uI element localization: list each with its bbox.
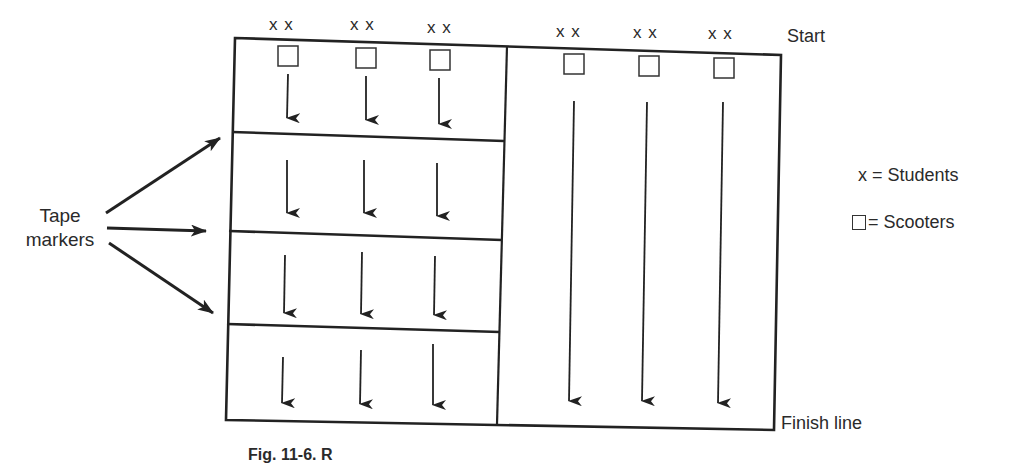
students-lane-left-1: x x [269,16,294,33]
down-arrow-icon [284,255,285,313]
scooter-icon [430,50,450,70]
students-lane-right-3: x x [708,25,733,42]
left-arrows-row-2 [287,160,437,216]
scooter-icon [564,54,584,74]
start-label: Start [787,27,825,45]
tape-marker-arrows [106,138,220,313]
figure-caption: Fig. 11-6. R [248,447,332,463]
down-arrow-icon [282,357,283,403]
scooter-icon [639,56,659,76]
right-arrows [569,101,723,403]
finish-line-label: Finish line [781,414,862,432]
tape-line-1 [232,132,504,141]
down-arrow-icon [569,101,574,401]
tape-lines [227,132,504,332]
down-arrow-icon [642,102,647,401]
pointer-arrow-icon [107,228,206,231]
scooters-right [564,54,734,78]
down-arrow-icon [360,350,361,404]
left-arrows-row-3 [284,252,435,315]
scooter-icon [278,46,298,66]
students-lane-left-2: x x [350,16,375,33]
scooters-left [278,46,450,70]
tape-label-line-1: Tape [18,204,102,228]
legend-scooters: = Scooters [852,213,955,231]
scooter-icon [356,48,376,68]
scooter-symbol-icon [852,215,866,230]
legend-students: x = Students [858,166,959,184]
tape-markers-label: Tape markers [18,204,102,252]
tape-line-2 [229,231,502,240]
down-arrow-icon [718,102,723,403]
left-arrows-row-1 [287,74,439,124]
tape-label-line-2: markers [18,228,102,252]
legend-scooters-text: = Scooters [868,212,955,232]
student-symbol: x [858,165,867,185]
students-lane-right-1: x x [556,23,581,40]
down-arrow-icon [361,252,362,314]
left-arrows-row-4 [282,344,433,405]
pointer-arrow-icon [109,243,213,313]
tape-line-3 [227,324,500,332]
students-lane-left-3: x x [427,19,452,36]
scooter-icon [714,58,734,78]
down-arrow-icon [287,74,288,118]
pointer-arrow-icon [106,138,220,213]
down-arrow-icon [434,256,435,315]
students-lane-right-2: x x [633,24,658,41]
legend-students-text: = Students [872,165,959,185]
